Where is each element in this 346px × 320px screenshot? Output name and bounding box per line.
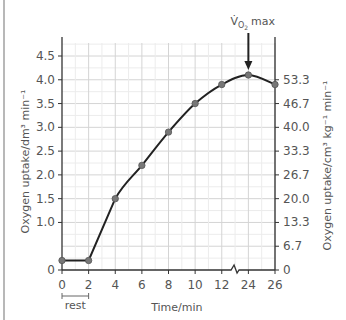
y-tick-label: 2.5 xyxy=(36,144,55,158)
y-right-tick-label: 53.3 xyxy=(283,73,310,87)
x-axis-title: Time/min xyxy=(150,301,202,314)
y-right-tick-label: 0 xyxy=(283,263,291,277)
vo2-chart: 01.01.52.02.53.03.54.04.506.713.320.026.… xyxy=(0,0,346,320)
data-point xyxy=(219,81,225,87)
x-tick-label: 10 xyxy=(187,278,202,292)
y-tick-label: 3.0 xyxy=(36,120,55,134)
y-right-tick-label: 26.7 xyxy=(283,168,310,182)
y-tick-label: 4.0 xyxy=(36,73,55,87)
x-tick-label: 24 xyxy=(241,278,256,292)
y-tick-label: 1.5 xyxy=(36,192,55,206)
x-tick-label: 26 xyxy=(267,278,282,292)
x-tick-label: 6 xyxy=(138,278,146,292)
x-tick-label: 8 xyxy=(165,278,173,292)
data-point xyxy=(85,257,91,263)
y-tick-label: 2.0 xyxy=(36,168,55,182)
y-axis-title-right: Oxygen uptake/cm³ kg⁻¹ min⁻¹ xyxy=(321,80,334,250)
vo2max-annotation: V̇O2max xyxy=(230,15,275,70)
vo2-label: V̇O2max xyxy=(230,15,275,31)
y-right-tick-label: 6.7 xyxy=(283,239,302,253)
grid xyxy=(62,43,275,270)
y-tick-label: 0 xyxy=(47,263,55,277)
data-point xyxy=(59,257,65,263)
data-point xyxy=(112,195,118,201)
x-tick-label: 2 xyxy=(85,278,93,292)
data-point xyxy=(245,72,251,78)
y-axis-title-left: Oxygen uptake/dm³ min⁻¹ xyxy=(19,90,32,234)
x-tick-label: 4 xyxy=(111,278,119,292)
data-point xyxy=(165,129,171,135)
data-point xyxy=(272,81,278,87)
y-tick-label: 1.0 xyxy=(36,215,55,229)
y-right-tick-label: 46.7 xyxy=(283,97,310,111)
data-point xyxy=(192,100,198,106)
y-right-tick-label: 40.0 xyxy=(283,120,310,134)
x-tick-label: 0 xyxy=(58,278,66,292)
data-point xyxy=(139,162,145,168)
rest-bracket: rest xyxy=(62,293,89,312)
y-right-tick-label: 13.3 xyxy=(283,215,310,229)
x-tick-label: 12 xyxy=(214,278,229,292)
rest-label: rest xyxy=(65,299,87,312)
y-tick-label: 3.5 xyxy=(36,97,55,111)
y-right-tick-label: 20.0 xyxy=(283,192,310,206)
y-right-tick-label: 33.3 xyxy=(283,144,310,158)
y-tick-label: 4.5 xyxy=(36,49,55,63)
